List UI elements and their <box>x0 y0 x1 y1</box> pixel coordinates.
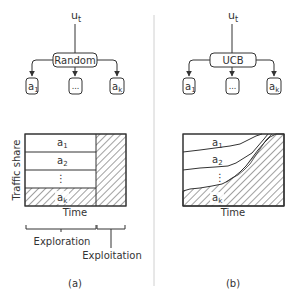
band-label: ⋮ <box>56 173 66 184</box>
policy-label: UCB <box>222 55 243 66</box>
traffic-share-chart: a1 a2 ⋮ ak <box>183 134 284 206</box>
input-label: ut <box>228 9 238 24</box>
panel-caption: (a) <box>68 278 82 289</box>
exploration-label: Exploration <box>34 236 91 247</box>
panel-b: ut UCB a1 ... ak a1 a2 ⋮ ak <box>183 9 284 289</box>
traffic-share-chart: a1 a2 ⋮ ak <box>25 134 126 206</box>
arm-label: ... <box>229 82 237 91</box>
panel-a: ut Random a1 ... ak a1 a2 ⋮ <box>11 9 142 289</box>
y-axis-label: Traffic share <box>11 140 22 202</box>
x-axis-label: Time <box>220 207 245 218</box>
input-label: ut <box>71 9 81 24</box>
x-axis-label: Time <box>62 207 87 218</box>
arm-label: ... <box>72 82 80 91</box>
exploitation-label: Exploitation <box>82 250 141 261</box>
policy-label: Random <box>54 55 95 66</box>
band-label: ⋮ <box>215 172 225 183</box>
panel-caption: (b) <box>226 278 240 289</box>
figure-canvas: ut Random a1 ... ak a1 a2 ⋮ <box>0 0 290 303</box>
